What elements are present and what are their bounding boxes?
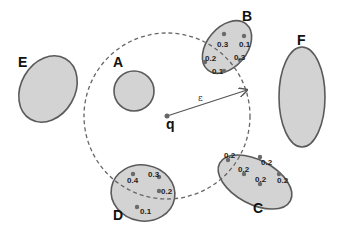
instance-probability: 0.2 [224, 151, 236, 160]
instance-point [135, 205, 139, 209]
region-D: 0.40.30.20.1D [107, 160, 180, 226]
instance-probability: 0.2 [161, 187, 173, 196]
instance-probability: 0.3 [148, 170, 160, 179]
range-query-diagram: A0.30.10.30.20.1B0.20.20.20.20.2C0.40.30… [0, 0, 342, 233]
instance-probability: 0.2 [261, 158, 273, 167]
instance-probability: 0.2 [238, 165, 250, 174]
region-F: F [279, 32, 325, 147]
region-C: 0.20.20.20.20.2C [209, 144, 300, 220]
instance-probability: 0.2 [205, 54, 217, 63]
instance-probability: 0.1 [140, 207, 152, 216]
region-label: A [113, 54, 123, 70]
epsilon-label: ε [198, 93, 203, 103]
region-label: B [242, 8, 252, 24]
region-B: 0.30.10.30.20.1B [192, 8, 261, 83]
region-label: F [297, 32, 306, 48]
query-label: q [166, 116, 175, 132]
instance-probability: 0.4 [127, 176, 139, 185]
instance-probability: 0.2 [255, 175, 267, 184]
instance-point [242, 34, 246, 38]
region-label: C [253, 200, 263, 216]
region-label: E [18, 54, 27, 70]
region-label: D [113, 207, 123, 223]
instance-probability: 0.3 [234, 53, 246, 62]
instance-point [222, 32, 226, 36]
instance-probability: 0.3 [217, 40, 229, 49]
instance-probability: 0.1 [239, 40, 251, 49]
region-E: E [7, 45, 89, 133]
region-shape [114, 71, 154, 111]
instance-probability: 0.1 [212, 67, 224, 76]
instance-probability: 0.2 [277, 176, 289, 185]
region-A: A [113, 54, 154, 111]
region-shape [279, 47, 325, 147]
epsilon-radius-arrow [167, 90, 247, 116]
